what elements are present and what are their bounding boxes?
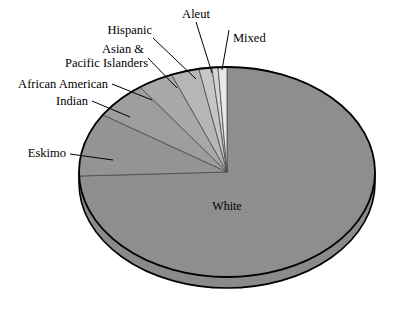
- label-hispanic: Hispanic: [108, 23, 153, 37]
- label-asian-line1: Asian &: [102, 42, 144, 56]
- label-indian: Indian: [56, 94, 89, 108]
- label-asian-line2: Pacific Islanders: [65, 56, 148, 70]
- label-african-american: African American: [18, 77, 109, 91]
- label-aleut: Aleut: [182, 7, 210, 21]
- leader-mixed: [222, 30, 229, 70]
- leader-hispanic: [153, 38, 196, 79]
- pie-chart-canvas: Eskimo Indian African American Asian & P…: [0, 0, 397, 315]
- label-white: White: [212, 199, 241, 213]
- pie-slices: [79, 67, 375, 277]
- pie-chart-figure: Eskimo Indian African American Asian & P…: [0, 0, 397, 315]
- label-mixed: Mixed: [233, 31, 266, 45]
- label-eskimo: Eskimo: [28, 146, 66, 160]
- leader-aleut: [196, 22, 212, 73]
